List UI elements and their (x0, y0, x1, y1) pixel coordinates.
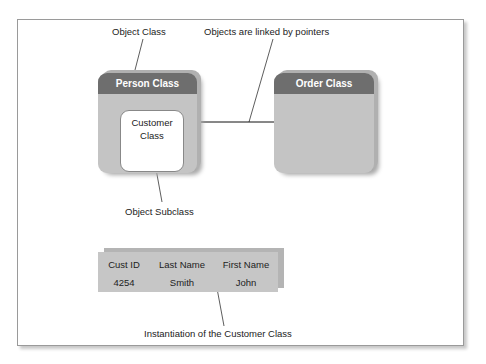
header-last-name: Last Name (150, 259, 214, 270)
callout-instantiation: Instantiation of the Customer Class (144, 328, 292, 339)
person-class-box: Person Class Customer Class (98, 73, 197, 173)
callout-object-class: Object Class (112, 26, 166, 37)
customer-subclass-box: Customer Class (120, 110, 184, 172)
table-row: 4254 Smith John (98, 273, 278, 291)
cell-last-name: Smith (150, 277, 214, 288)
person-class-title: Person Class (98, 73, 197, 94)
instance-table: Cust ID Last Name First Name 4254 Smith … (98, 252, 278, 292)
subclass-line1: Customer (121, 116, 183, 129)
order-class-title: Order Class (274, 73, 374, 94)
connector-lines (0, 0, 486, 364)
callout-object-subclass: Object Subclass (125, 206, 194, 217)
header-first-name: First Name (214, 259, 278, 270)
header-cust-id: Cust ID (98, 259, 150, 270)
subclass-line2: Class (121, 129, 183, 142)
cell-first-name: John (214, 277, 278, 288)
table-header-row: Cust ID Last Name First Name (98, 255, 278, 273)
order-class-box: Order Class (274, 73, 374, 173)
callout-linked-by-pointers: Objects are linked by pointers (204, 26, 329, 37)
cell-cust-id: 4254 (98, 277, 150, 288)
